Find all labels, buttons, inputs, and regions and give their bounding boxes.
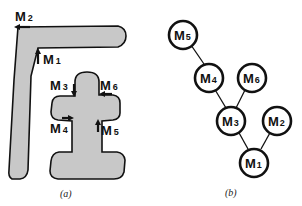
node-m2: M2	[263, 107, 291, 135]
marker-m3: M3	[50, 78, 77, 97]
node-m5: M5	[169, 21, 197, 49]
figure: M2 M1 M3 M6 M4 M5	[0, 0, 302, 206]
panel-b: M5 M4 M6 M3 M2 M1 (b)	[169, 21, 291, 199]
marker-label: M5	[101, 123, 119, 138]
marker-label: M3	[50, 78, 68, 93]
marker-m1: M1	[35, 48, 61, 67]
marker-label: M2	[15, 9, 33, 24]
marker-label: M6	[100, 78, 118, 93]
caption-a: (a)	[60, 188, 72, 200]
node-m1: M1	[240, 149, 268, 177]
edge-m5-m4	[191, 45, 204, 64]
panel-a: M2 M1 M3 M6 M4 M5	[9, 9, 126, 200]
node-m6: M6	[238, 64, 266, 92]
marker-label: M4	[50, 121, 68, 136]
marker-m6: M6	[99, 78, 118, 97]
node-m3: M3	[217, 107, 245, 135]
node-m4: M4	[195, 64, 223, 92]
caption-b: (b)	[225, 187, 237, 199]
marker-label: M1	[43, 52, 61, 67]
